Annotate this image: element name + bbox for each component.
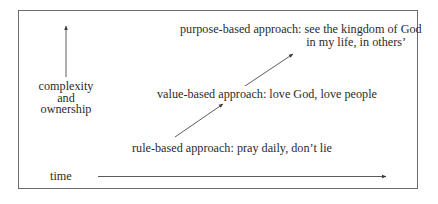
- value-based-label: value-based approach: love God, love peo…: [157, 88, 377, 101]
- arrow-value-to-purpose-icon: [245, 54, 293, 86]
- rule-based-label: rule-based approach: pray daily, don’t l…: [132, 142, 332, 155]
- arrow-rule-to-value-icon: [175, 104, 223, 137]
- purpose-based-label-line-2: in my life, in others’: [306, 36, 406, 49]
- y-axis-label-line-3: ownership: [26, 104, 106, 116]
- x-axis-label: time: [50, 170, 72, 183]
- y-axis-label: complexity and ownership: [26, 81, 106, 116]
